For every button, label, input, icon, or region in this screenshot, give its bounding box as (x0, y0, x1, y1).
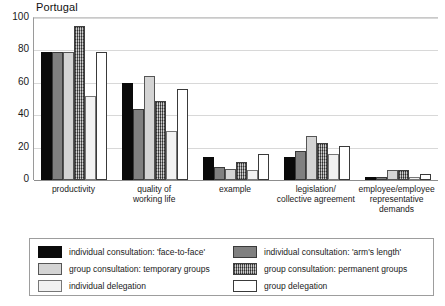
plot-area (33, 17, 438, 180)
y-tick-label-60: 60 (3, 77, 29, 87)
bar (328, 154, 339, 180)
x-axis-label: quality ofworking life (114, 184, 195, 204)
bar (155, 101, 166, 180)
legend-item[interactable]: group delegation (233, 278, 433, 294)
x-axis-label: legislation/collective agreement (275, 184, 356, 204)
legend-item[interactable]: group consultation: temporary groups (38, 261, 238, 277)
legend-label: individual consultation: 'face-to-face' (69, 247, 205, 257)
chart-plot-wrapper: 020406080100 productivityquality ofworki… (0, 0, 445, 232)
legend-column-left: individual consultation: 'face-to-face'g… (38, 244, 238, 295)
bar (365, 177, 376, 180)
bar (247, 170, 258, 180)
legend-item[interactable]: individual delegation (38, 278, 238, 294)
x-axis-label: example (195, 184, 276, 194)
bar-group (284, 18, 350, 180)
legend-swatch-icon (233, 263, 257, 275)
bar (236, 162, 247, 180)
legend-swatch-icon (38, 280, 62, 292)
y-tick-label-20: 20 (3, 142, 29, 152)
y-tick-label-0: 0 (3, 174, 29, 184)
y-tick-label-100: 100 (3, 12, 29, 22)
bar (295, 151, 306, 180)
legend-swatch-icon (233, 246, 257, 258)
bar (52, 52, 63, 180)
bar (317, 143, 328, 180)
bar (420, 174, 431, 180)
y-tick-label-40: 40 (3, 109, 29, 119)
legend-label: group consultation: temporary groups (69, 264, 210, 274)
bar (225, 169, 236, 180)
bar-group (122, 18, 188, 180)
bar (166, 131, 177, 180)
bar-group (365, 18, 431, 180)
gridline-0 (34, 180, 438, 181)
bar (144, 76, 155, 180)
bar (63, 52, 74, 180)
x-axis-label: productivity (33, 184, 114, 194)
bar (203, 157, 214, 180)
bar (409, 177, 420, 180)
bar (85, 96, 96, 180)
bar (376, 177, 387, 180)
x-axis-label: employee/employeerepresentativedemands (356, 184, 437, 214)
bar (387, 170, 398, 180)
bar (398, 170, 409, 180)
bar (96, 52, 107, 180)
bar (258, 154, 269, 180)
legend-item[interactable]: individual consultation: 'arm's length' (233, 244, 433, 260)
bar (214, 167, 225, 180)
legend-label: group delegation (264, 281, 327, 291)
legend-item[interactable]: individual consultation: 'face-to-face' (38, 244, 238, 260)
bar (74, 26, 85, 180)
bar (177, 89, 188, 180)
legend-swatch-icon (233, 280, 257, 292)
bar-group (41, 18, 107, 180)
y-tick-label-80: 80 (3, 44, 29, 54)
bar-group (203, 18, 269, 180)
legend-item[interactable]: group consultation: permanent groups (233, 261, 433, 277)
legend-label: individual consultation: 'arm's length' (264, 247, 401, 257)
legend-column-right: individual consultation: 'arm's length'g… (233, 244, 433, 295)
bar (133, 109, 144, 180)
legend-label: group consultation: permanent groups (264, 264, 407, 274)
bar (41, 52, 52, 180)
legend-swatch-icon (38, 246, 62, 258)
bar (122, 83, 133, 180)
chart-legend: individual consultation: 'face-to-face'g… (29, 238, 434, 296)
legend-label: individual delegation (69, 281, 146, 291)
bar (339, 146, 350, 180)
bar (306, 136, 317, 180)
x-axis-labels: productivityquality ofworking lifeexampl… (33, 184, 438, 232)
legend-swatch-icon (38, 263, 62, 275)
bar (284, 157, 295, 180)
